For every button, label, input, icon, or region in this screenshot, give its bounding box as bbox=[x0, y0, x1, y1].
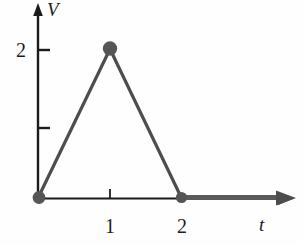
data-point-marker-end bbox=[176, 192, 187, 203]
y-tick-label-2: 2 bbox=[13, 40, 29, 60]
x-tick-label-2: 2 bbox=[174, 216, 190, 236]
data-point-marker-peak bbox=[103, 41, 117, 55]
x-tick-label-1: 1 bbox=[102, 216, 118, 236]
chart-figure: V t 2 1 2 bbox=[0, 0, 303, 245]
triangular-pulse-plot bbox=[0, 0, 303, 245]
data-point-marker-origin bbox=[33, 191, 46, 204]
plot-background bbox=[0, 0, 303, 245]
y-axis-label: V bbox=[47, 0, 59, 19]
x-axis-label: t bbox=[259, 215, 264, 234]
